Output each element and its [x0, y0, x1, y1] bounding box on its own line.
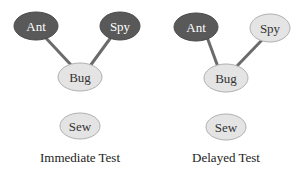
node-ant: Ant — [174, 13, 218, 41]
node-spy: Spy — [250, 14, 290, 42]
edge-spy-bug — [90, 36, 112, 66]
node-label: Sew — [69, 119, 92, 134]
panel-delayed-test: Ant Spy Bug Sew — [174, 13, 290, 140]
node-label: Spy — [260, 21, 281, 36]
edge-ant-bug — [44, 36, 72, 66]
node-ant: Ant — [14, 12, 58, 40]
node-label: Ant — [186, 20, 206, 35]
node-spy: Spy — [100, 12, 140, 40]
node-bug: Bug — [204, 64, 248, 92]
node-sew: Sew — [206, 114, 246, 140]
node-label: Bug — [215, 71, 237, 86]
panel-immediate-test: Ant Spy Bug Sew — [14, 12, 140, 139]
edge-spy-bug — [236, 40, 262, 67]
caption-delayed-test: Delayed Test — [151, 150, 301, 166]
node-label: Spy — [110, 19, 131, 34]
edge-ant-bug — [207, 37, 218, 67]
node-label: Bug — [69, 70, 91, 85]
node-bug: Bug — [58, 63, 102, 91]
caption-immediate-test: Immediate Test — [5, 150, 155, 166]
node-label: Ant — [26, 19, 46, 34]
node-sew: Sew — [60, 113, 100, 139]
node-label: Sew — [215, 120, 238, 135]
